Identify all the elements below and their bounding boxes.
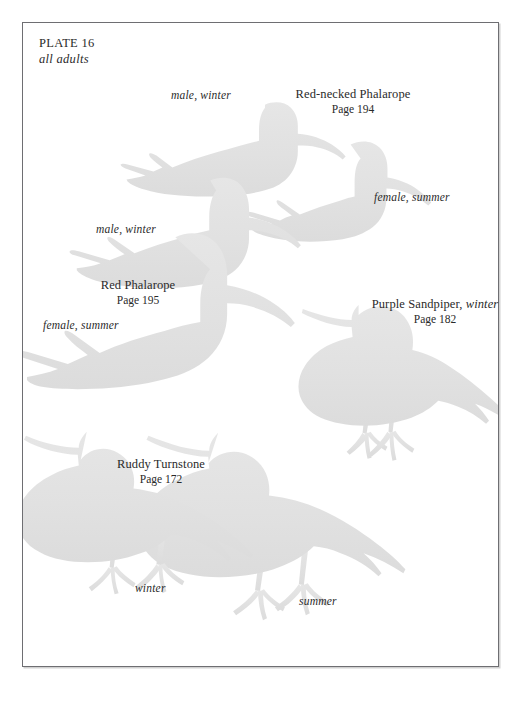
caption-ruddy-turnstone-winter: winter: [135, 582, 166, 594]
plate-label-layer: PLATE 16 all adults male, winter Red-nec…: [23, 23, 498, 666]
caption-ruddy-turnstone-summer: summer: [299, 595, 337, 607]
species-page-red-necked-phalarope: Page 194: [273, 103, 433, 115]
plate-number: PLATE 16: [39, 36, 95, 51]
species-name-red-phalarope: Red Phalarope: [58, 278, 218, 293]
species-name-purple-sandpiper: Purple Sandpiper, winter: [345, 297, 523, 312]
caption-red-phalarope-male-winter: male, winter: [96, 223, 156, 235]
species-page-purple-sandpiper: Page 182: [345, 313, 523, 325]
species-name-ruddy-turnstone: Ruddy Turnstone: [81, 457, 241, 472]
plate-heading: PLATE 16 all adults: [39, 36, 95, 67]
plate-subtitle: all adults: [39, 52, 95, 67]
species-name-purple-sandpiper-text: Purple Sandpiper,: [372, 297, 463, 311]
species-name-purple-sandpiper-plumage: winter: [466, 297, 499, 311]
species-block-red-phalarope: Red Phalarope Page 195: [58, 278, 218, 306]
plate-frame: PLATE 16 all adults male, winter Red-nec…: [22, 22, 499, 667]
caption-red-phalarope-female-summer: female, summer: [43, 319, 119, 331]
species-page-ruddy-turnstone: Page 172: [81, 473, 241, 485]
caption-red-necked-phalarope-male-winter: male, winter: [171, 89, 231, 101]
species-page-red-phalarope: Page 195: [58, 294, 218, 306]
species-block-purple-sandpiper: Purple Sandpiper, winter Page 182: [345, 297, 523, 325]
caption-red-necked-phalarope-female-summer: female, summer: [374, 191, 450, 203]
species-name-red-necked-phalarope: Red-necked Phalarope: [273, 87, 433, 102]
plate-page: PLATE 16 all adults male, winter Red-nec…: [0, 0, 523, 707]
species-block-ruddy-turnstone: Ruddy Turnstone Page 172: [81, 457, 241, 485]
species-block-red-necked-phalarope: Red-necked Phalarope Page 194: [273, 87, 433, 115]
